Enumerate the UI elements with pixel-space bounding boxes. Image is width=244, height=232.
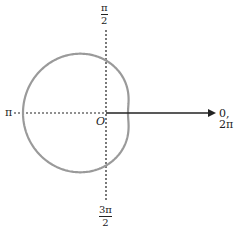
arrowhead-icon <box>208 109 216 117</box>
pi-over-2-label: π 2 <box>101 3 108 26</box>
polar-diagram <box>0 0 244 232</box>
pi-label: π <box>5 107 12 118</box>
fraction-numerator: 3π <box>99 205 112 215</box>
fraction-denominator: 2 <box>101 16 107 26</box>
fraction-denominator: 2 <box>102 218 108 228</box>
origin-label: O <box>96 116 105 127</box>
fraction-numerator: π <box>101 3 108 13</box>
3pi-over-2-label: 3π 2 <box>99 205 112 228</box>
polar-axis-label: 0, 2π <box>219 108 244 130</box>
